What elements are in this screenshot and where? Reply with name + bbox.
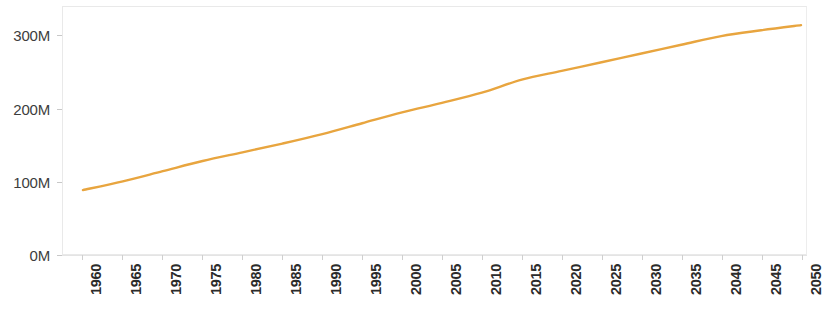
y-tick-label: 300M [13, 27, 50, 44]
x-tick-label: 1975 [208, 264, 224, 295]
x-tick-label: 1965 [128, 264, 144, 295]
x-tick-mark [442, 255, 443, 260]
x-tick-label: 1960 [88, 264, 104, 295]
x-tick-label: 1985 [288, 264, 304, 295]
x-tick-label: 2010 [488, 264, 504, 295]
x-tick-label: 2000 [408, 264, 424, 295]
x-tick-label: 2045 [768, 264, 784, 295]
x-tick-label: 1990 [328, 264, 344, 295]
y-tick-label: 200M [13, 100, 50, 117]
x-tick-mark [322, 255, 323, 260]
x-tick-mark [802, 255, 803, 260]
x-tick-mark [242, 255, 243, 260]
x-axis-line [62, 255, 807, 256]
x-tick-label: 1995 [368, 264, 384, 295]
x-tick-mark [402, 255, 403, 260]
x-tick-label: 1980 [248, 264, 264, 295]
x-tick-mark [562, 255, 563, 260]
plot-svg [63, 7, 806, 254]
x-tick-mark [762, 255, 763, 260]
x-tick-mark [282, 255, 283, 260]
x-tick-label: 2005 [448, 264, 464, 295]
x-tick-mark [602, 255, 603, 260]
plot-area [62, 6, 807, 255]
x-tick-label: 2040 [728, 264, 744, 295]
x-axis: 1960196519701975198019851990199520002005… [0, 255, 817, 316]
x-tick-label: 1970 [168, 264, 184, 295]
series-line-population [83, 25, 801, 190]
x-tick-mark [642, 255, 643, 260]
x-tick-mark [482, 255, 483, 260]
x-tick-label: 2035 [688, 264, 704, 295]
x-tick-label: 2025 [608, 264, 624, 295]
x-tick-label: 2050 [808, 264, 824, 295]
x-tick-mark [82, 255, 83, 260]
x-tick-mark [682, 255, 683, 260]
x-tick-label: 2030 [648, 264, 664, 295]
x-tick-mark [202, 255, 203, 260]
x-tick-mark [122, 255, 123, 260]
x-tick-label: 2020 [568, 264, 584, 295]
y-tick-label: 100M [13, 173, 50, 190]
x-tick-mark [522, 255, 523, 260]
x-tick-mark [722, 255, 723, 260]
x-tick-mark [162, 255, 163, 260]
x-tick-mark [362, 255, 363, 260]
x-tick-label: 2015 [528, 264, 544, 295]
y-axis: 0M100M200M300M [0, 0, 58, 262]
